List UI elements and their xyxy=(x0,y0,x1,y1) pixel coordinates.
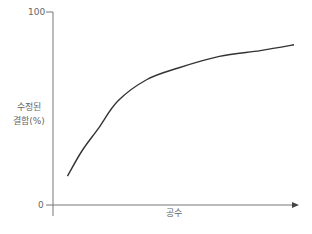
defects-curve xyxy=(68,45,295,176)
y-axis-label-line2: 결함(%) xyxy=(8,114,50,128)
y-axis-label: 수정된 결함(%) xyxy=(8,100,50,128)
x-axis-label: 공수 xyxy=(166,209,182,218)
y-axis-label-line1: 수정된 xyxy=(8,100,50,114)
y-tick-label-min: 0 xyxy=(38,201,44,210)
x-axis-arrow-icon xyxy=(292,202,299,208)
effort-vs-defects-chart: 100 0 수정된 결함(%) 공수 xyxy=(0,0,312,234)
y-tick-label-max: 100 xyxy=(28,8,45,17)
